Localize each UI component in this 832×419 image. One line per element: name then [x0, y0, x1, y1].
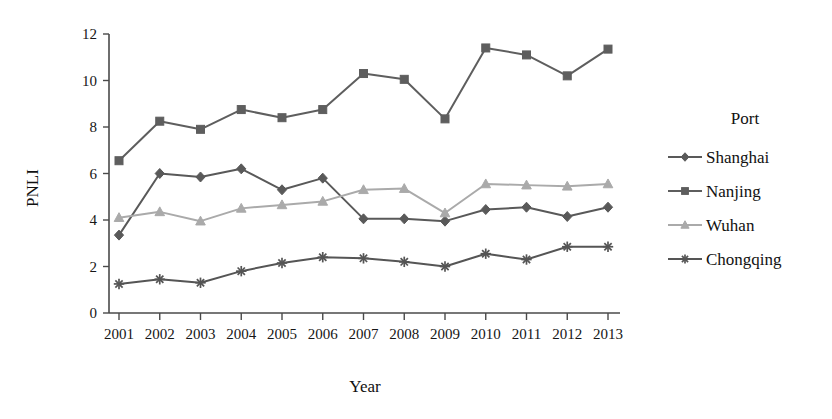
- legend-item-label: Wuhan: [706, 216, 755, 235]
- data-point-marker: [681, 153, 689, 162]
- y-axis-ticks: 024681012: [82, 26, 109, 321]
- x-tick-label: 2001: [104, 326, 134, 342]
- x-tick-label: 2007: [349, 326, 380, 342]
- data-point-marker: [318, 252, 328, 262]
- data-series-group: [114, 44, 613, 289]
- data-point-marker: [156, 117, 164, 125]
- data-point-marker: [115, 157, 123, 165]
- data-point-marker: [682, 188, 689, 195]
- data-point-marker: [440, 261, 450, 271]
- series-line: [119, 247, 608, 284]
- data-point-marker: [563, 72, 571, 80]
- x-tick-label: 2013: [593, 326, 623, 342]
- data-point-marker: [197, 125, 205, 133]
- data-point-marker: [277, 258, 287, 268]
- series-line: [119, 169, 608, 235]
- y-axis-title: PNLI: [23, 169, 42, 207]
- data-point-marker: [441, 115, 449, 123]
- series-chongqing: [114, 242, 613, 290]
- data-point-marker: [237, 164, 246, 174]
- data-point-marker: [481, 249, 491, 259]
- data-point-marker: [481, 205, 490, 215]
- y-axis-title-group: PNLI: [23, 169, 42, 207]
- data-point-marker: [562, 242, 572, 252]
- data-point-marker: [358, 253, 368, 263]
- legend-item-chongqing[interactable]: Chongqing: [668, 250, 782, 269]
- x-tick-label: 2002: [145, 326, 175, 342]
- x-axis-title: Year: [349, 377, 381, 396]
- legend-item-label: Shanghai: [706, 148, 770, 167]
- series-shanghai: [114, 164, 612, 240]
- x-tick-label: 2005: [267, 326, 297, 342]
- y-tick-label: 4: [90, 212, 98, 228]
- x-tick-label: 2010: [471, 326, 501, 342]
- series-nanjing: [115, 44, 612, 165]
- series-line: [119, 48, 608, 161]
- x-tick-label: 2006: [308, 326, 339, 342]
- y-tick-label: 10: [82, 73, 97, 89]
- legend-item-label: Chongqing: [706, 250, 782, 269]
- data-point-marker: [114, 279, 124, 289]
- x-tick-label: 2003: [186, 326, 216, 342]
- data-point-marker: [319, 106, 327, 114]
- x-tick-label: 2004: [226, 326, 257, 342]
- legend-item-shanghai[interactable]: Shanghai: [668, 148, 770, 167]
- data-point-marker: [196, 172, 205, 182]
- data-point-marker: [237, 106, 245, 114]
- data-point-marker: [522, 202, 531, 212]
- data-point-marker: [399, 257, 409, 267]
- y-tick-label: 0: [90, 305, 98, 321]
- legend-item-label: Nanjing: [706, 182, 761, 201]
- data-point-marker: [195, 278, 205, 288]
- y-tick-label: 6: [90, 166, 98, 182]
- data-point-marker: [604, 45, 612, 53]
- x-tick-label: 2012: [552, 326, 582, 342]
- x-axis-ticks: 2001200220032004200520062007200820092010…: [104, 313, 623, 342]
- y-tick-label: 8: [90, 119, 98, 135]
- y-tick-label: 12: [82, 26, 97, 42]
- data-point-marker: [563, 212, 572, 222]
- data-point-marker: [681, 255, 690, 264]
- legend-title: Port: [731, 109, 760, 128]
- line-chart-svg: PNLI 024681012 2001200220032004200520062…: [0, 0, 832, 419]
- data-point-marker: [603, 242, 613, 252]
- y-tick-label: 2: [90, 259, 98, 275]
- data-point-marker: [278, 114, 286, 122]
- data-point-marker: [360, 70, 368, 78]
- data-point-marker: [523, 51, 531, 59]
- x-tick-label: 2009: [430, 326, 460, 342]
- data-point-marker: [521, 254, 531, 264]
- data-point-marker: [440, 208, 450, 217]
- legend-item-wuhan[interactable]: Wuhan: [668, 216, 755, 235]
- data-point-marker: [603, 202, 612, 212]
- data-point-marker: [155, 274, 165, 284]
- legend: Port ShanghaiNanjingWuhanChongqing: [668, 109, 782, 269]
- chart-figure: PNLI 024681012 2001200220032004200520062…: [0, 0, 832, 419]
- data-point-marker: [440, 216, 449, 226]
- data-point-marker: [236, 266, 246, 276]
- x-tick-label: 2011: [512, 326, 541, 342]
- legend-item-nanjing[interactable]: Nanjing: [668, 182, 761, 201]
- data-point-marker: [155, 207, 165, 216]
- data-point-marker: [277, 185, 286, 195]
- data-point-marker: [400, 75, 408, 83]
- data-point-marker: [400, 214, 409, 224]
- x-tick-label: 2008: [389, 326, 419, 342]
- x-axis-title-group: Year: [349, 377, 381, 396]
- data-point-marker: [482, 44, 490, 52]
